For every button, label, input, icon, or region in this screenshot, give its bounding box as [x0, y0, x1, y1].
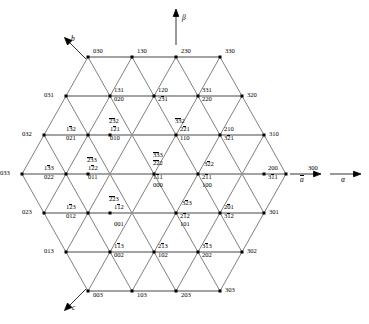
digit: 2 — [115, 117, 118, 124]
miller-index-label: 003 — [93, 292, 103, 299]
miller-index-label: 111 — [153, 174, 163, 181]
miller-index-label: 302 — [247, 248, 257, 255]
digit: 1 — [186, 125, 189, 132]
miller-index-label: 103 — [137, 292, 147, 299]
miller-index-label: 021 — [66, 135, 76, 142]
miller-index-label: 130 — [137, 48, 147, 55]
miller-index-label: 333 — [153, 152, 163, 159]
digit-overlined: 1 — [205, 174, 208, 181]
miller-index-label: 123 — [66, 204, 76, 211]
digit: 3 — [208, 242, 211, 249]
digit-overlined: 3 — [69, 126, 72, 133]
diagonal-line — [88, 252, 110, 291]
digit-overlined: 3 — [90, 157, 93, 164]
miller-index-label: 303 — [225, 287, 235, 294]
lattice-vertex — [219, 134, 222, 137]
lattice-vertex — [197, 173, 200, 176]
miller-index-label: 221 — [180, 126, 190, 133]
digit: 3 — [164, 242, 167, 249]
miller-index-label: 330 — [225, 48, 235, 55]
miller-index-label: 122 — [88, 165, 98, 172]
miller-index-label: 220 — [202, 96, 212, 103]
digit: 2 — [230, 212, 233, 219]
digit: 1 — [230, 134, 233, 141]
diagonal-line — [220, 57, 242, 96]
digit: 2 — [72, 125, 75, 132]
digit: 1 — [164, 95, 167, 102]
lattice-vertex — [219, 56, 222, 59]
miller-index-label: 020 — [114, 96, 124, 103]
diagonal-line — [66, 57, 88, 96]
miller-index-label: 232 — [109, 118, 119, 125]
lattice-vertex — [241, 251, 244, 254]
digit-overlined: 1 — [271, 174, 274, 181]
miller-index-label: 202 — [202, 252, 212, 259]
digit-overlined: 1 — [117, 243, 120, 250]
digit-overlined: 1 — [117, 204, 120, 211]
a-axis-arrowhead — [314, 171, 322, 177]
lattice-vertex — [153, 95, 156, 98]
digit: 3 — [159, 151, 162, 158]
diagonal-line — [176, 252, 198, 291]
beta-axis-label: β — [182, 13, 186, 22]
miller-index-label: 230 — [181, 48, 191, 55]
lattice-vertex — [43, 134, 46, 137]
lattice-vertex — [263, 173, 266, 176]
miller-index-label: 231 — [158, 96, 168, 103]
miller-index-label: 323 — [182, 200, 192, 207]
digit-overlined: 3 — [178, 118, 181, 125]
miller-index-label: 200 — [268, 165, 278, 172]
digit-overlined: 3 — [47, 165, 50, 172]
digit: 2 — [181, 117, 184, 124]
miller-index-label: 100 — [202, 182, 212, 189]
digit: 2 — [186, 212, 189, 219]
lattice-vertex — [87, 212, 90, 215]
digit: 1 — [159, 173, 162, 180]
miller-index-label: 322 — [204, 161, 214, 168]
miller-index-label: 201 — [224, 204, 234, 211]
digit-overlined: 2 — [227, 135, 230, 142]
miller-index-label: 212 — [180, 213, 190, 220]
miller-index-label: 332 — [175, 118, 185, 125]
lattice-vertex — [285, 173, 288, 176]
digit: 1 — [230, 203, 233, 210]
miller-index-label: 023 — [22, 209, 32, 216]
digit-overlined: 2 — [185, 200, 188, 207]
lattice-vertex — [43, 212, 46, 215]
miller-index-label: 213 — [158, 243, 168, 250]
beta-axis-arrowhead — [173, 9, 179, 17]
diagonal-line — [88, 96, 110, 135]
miller-index-label: 022 — [44, 174, 54, 181]
a-axis-overline-text: a — [300, 175, 304, 184]
lattice-vertex — [241, 95, 244, 98]
digit: 2 — [210, 160, 213, 167]
diagonal-line — [132, 174, 154, 213]
miller-index-label: 011 — [88, 174, 97, 181]
digit-overlined: 2 — [183, 126, 186, 133]
diagonal-line — [66, 252, 88, 291]
digit-overlined: 2 — [69, 204, 72, 211]
miller-index-label: 131 — [114, 87, 124, 94]
miller-index-label: 233 — [87, 157, 97, 164]
miller-index-label: 311 — [268, 174, 278, 181]
miller-index-label: 320 — [247, 92, 257, 99]
lattice-vertex — [65, 173, 68, 176]
diagonal-line — [242, 135, 264, 174]
miller-index-label: 331 — [202, 87, 212, 94]
miller-index-label: 132 — [66, 126, 76, 133]
digit-overlined: 2 — [112, 196, 115, 203]
miller-index-label: 032 — [22, 131, 32, 138]
digit: 3 — [93, 156, 96, 163]
lattice-vertex — [87, 290, 90, 293]
lattice-vertex — [175, 56, 178, 59]
diagonal-line — [242, 174, 264, 213]
miller-index-label: 000 — [153, 182, 163, 189]
digit-overlined: 2 — [207, 161, 210, 168]
lattice-vertex — [87, 134, 90, 137]
lattice-vertex — [175, 134, 178, 137]
miller-index-label: 312 — [224, 213, 234, 220]
diagonal-line — [132, 252, 154, 291]
lattice-vertex — [65, 95, 68, 98]
digit-overlined: 1 — [227, 213, 230, 220]
diagonal-line — [176, 174, 198, 213]
